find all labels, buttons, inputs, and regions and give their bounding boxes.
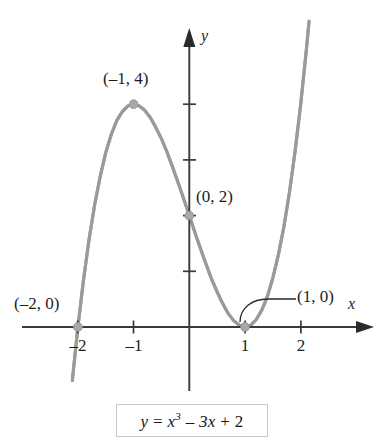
x-tick-label-neg2: –2	[66, 337, 90, 354]
y-axis-arrow	[183, 28, 195, 47]
equation-middle-term: 3x	[199, 411, 216, 430]
equation-minus: –	[186, 411, 195, 430]
graph-plot	[0, 0, 381, 443]
point-label-root-left: (–2, 0)	[14, 295, 59, 312]
y-axis-label: y	[201, 28, 208, 44]
point-marker-root-right	[241, 323, 250, 332]
point-marker-root-left	[74, 323, 83, 332]
equation-caption-box: y = x3 – 3x + 2	[116, 404, 268, 437]
point-marker-yintercept	[185, 211, 194, 220]
point-label-yintercept: (0, 2)	[196, 188, 233, 205]
equation-plus: +	[220, 411, 230, 430]
x-tick-label-pos1: 1	[238, 337, 252, 354]
x-tick-label-pos2: 2	[294, 337, 308, 354]
figure-canvas: y x –2 –1 1 2 (–1, 4) (0, 2) (–2, 0) (1,…	[0, 0, 381, 443]
equation-equals-sign: =	[153, 411, 163, 430]
point-label-root-right: (1, 0)	[297, 288, 334, 305]
x-tick-label-neg1: –1	[122, 337, 146, 354]
x-axis-arrow	[356, 321, 374, 333]
equation-constant: 2	[235, 411, 244, 430]
equation-text: y = x3 – 3x + 2	[141, 410, 244, 432]
leader-line-root-right	[240, 299, 296, 322]
equation-exponent: 3	[175, 410, 181, 422]
point-marker-max	[129, 100, 138, 109]
x-axis-label: x	[348, 296, 355, 312]
point-label-max: (–1, 4)	[103, 70, 148, 87]
